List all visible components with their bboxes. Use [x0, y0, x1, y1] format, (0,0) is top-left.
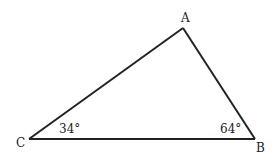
vertex-label-b: B	[256, 141, 265, 155]
triangle-diagram: A B C 34° 64°	[0, 0, 278, 157]
side-ca	[29, 28, 183, 139]
vertex-label-c: C	[16, 136, 25, 150]
vertex-label-a: A	[180, 11, 190, 25]
angle-label-c: 34°	[59, 122, 80, 136]
side-ab	[183, 28, 255, 139]
angle-label-b: 64°	[220, 122, 241, 136]
